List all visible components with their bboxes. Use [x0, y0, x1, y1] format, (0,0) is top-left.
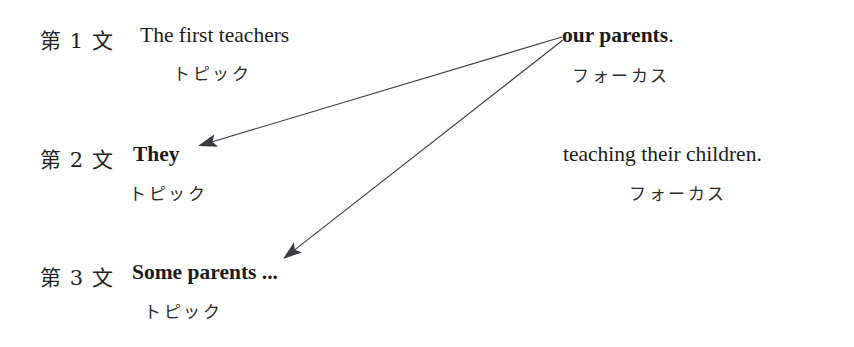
sentence-1-topic-text: The first teachers	[140, 23, 289, 48]
figure-canvas: 第 1 文 The first teachers トピック our parent…	[0, 0, 854, 347]
sentence-2-topic-label: トピック	[129, 180, 207, 205]
sentence-3-topic-label: トピック	[144, 298, 222, 323]
sentence-1-focus-label: フォーカス	[572, 62, 670, 87]
arrow-our-parents-to-they-head	[198, 134, 218, 146]
sentence-3-topic-text: Some parents ...	[132, 260, 278, 285]
sentence-2-topic-text: They	[133, 142, 180, 167]
arrow-layer	[0, 0, 854, 347]
arrow-our-parents-to-some-parents-head	[283, 242, 302, 259]
sentence-2-focus-text: teaching their children.	[563, 142, 762, 167]
arrow-our-parents-to-they-shaft	[211, 37, 562, 142]
sentence-marker-1: 第 1 文	[40, 24, 114, 54]
sentence-1-focus-text: our parents.	[562, 23, 674, 48]
sentence-1-focus-period: .	[668, 23, 673, 47]
sentence-2-focus-label: フォーカス	[629, 180, 727, 205]
sentence-1-focus-words: our parents	[562, 23, 668, 47]
arrow-our-parents-to-some-parents-shaft	[294, 40, 563, 250]
sentence-1-topic-label: トピック	[173, 60, 251, 85]
sentence-marker-2: 第 2 文	[40, 143, 114, 173]
sentence-marker-3: 第 3 文	[40, 261, 114, 291]
